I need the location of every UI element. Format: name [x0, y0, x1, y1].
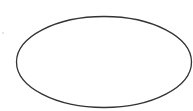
ellipse-shape[interactable]	[17, 17, 192, 108]
diagram-canvas	[0, 0, 193, 111]
diagram-svg	[0, 0, 193, 111]
artifact-speck	[2, 32, 4, 34]
